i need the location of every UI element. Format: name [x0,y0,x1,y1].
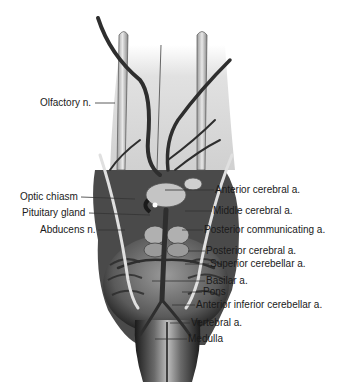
label-optic-chiasm: Optic chiasm [20,191,78,203]
label-middle-cerebral-a: Middle cerebral a. [213,205,292,217]
leader-line-pituitary [89,213,150,215]
label-posterior-cerebral-a: Posterior cerebral a. [206,245,296,257]
label-olfactory-n: Olfactory n. [40,97,91,109]
leader-line-optic-chiasm [81,197,135,199]
label-pituitary-gland: Pituitary gland [22,207,85,219]
label-anterior-inferior-cerebellar-a: Anterior inferior cerebellar a. [196,299,322,311]
label-vertebral-a: Vertebral a. [191,317,242,329]
label-abducens-n: Abducens n. [40,224,96,236]
label-superior-cerebellar-a: Superior cerebellar a. [210,258,306,270]
label-pons: Pons [203,286,226,298]
label-medulla: Medulla [188,333,223,345]
label-anterior-cerebral-a: Anterior cerebral a. [215,184,300,196]
label-posterior-communicating-a: Posterior communicating a. [204,224,325,236]
anatomy-figure: Olfactory n. Optic chiasm Pituitary glan… [0,0,347,386]
